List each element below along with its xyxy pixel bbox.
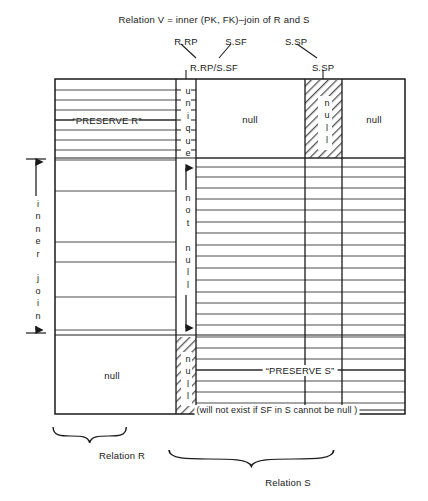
region-label-null-top-right: null bbox=[366, 114, 381, 125]
vertical-label-not-null: not null bbox=[181, 190, 192, 295]
region-label-null-bottom-left: null bbox=[104, 370, 119, 381]
diagram-canvas bbox=[0, 0, 428, 501]
brace-relation-r bbox=[53, 427, 126, 443]
region-label-preserve-r: “PRESERVE R” bbox=[72, 115, 141, 126]
brace-label-relation-s: Relation S bbox=[265, 477, 310, 488]
brace-label-relation-r: Relation R bbox=[99, 450, 145, 461]
region-label-null-top-left: null bbox=[242, 114, 257, 125]
brace-relation-s bbox=[169, 450, 334, 466]
header-ticks bbox=[186, 70, 323, 79]
vertical-label-inner-join: inner join bbox=[31, 196, 42, 326]
hatched-cell-join-foot bbox=[176, 408, 196, 414]
band-separators bbox=[55, 158, 405, 335]
diagram-frame bbox=[55, 79, 405, 414]
rows-right-inner bbox=[196, 167, 405, 325]
rows-left-inner bbox=[55, 160, 176, 330]
footnote-text: (will not exist if SF in S cannot be nul… bbox=[194, 405, 359, 415]
leader-lines bbox=[181, 44, 317, 58]
vertical-label-unique: unique bbox=[181, 86, 192, 160]
region-label-preserve-s: “PRESERVE S” bbox=[263, 365, 338, 376]
region-label-null-top-hatched: null bbox=[318, 96, 332, 150]
region-label-null-bottom-hatched: null bbox=[181, 352, 192, 406]
